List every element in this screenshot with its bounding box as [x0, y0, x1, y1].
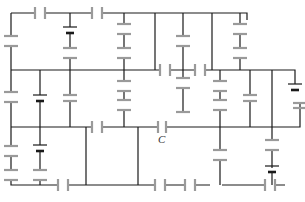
wires: [11, 13, 300, 185]
circuit-diagram: [0, 0, 305, 202]
capacitor-label-C: C: [158, 133, 165, 145]
